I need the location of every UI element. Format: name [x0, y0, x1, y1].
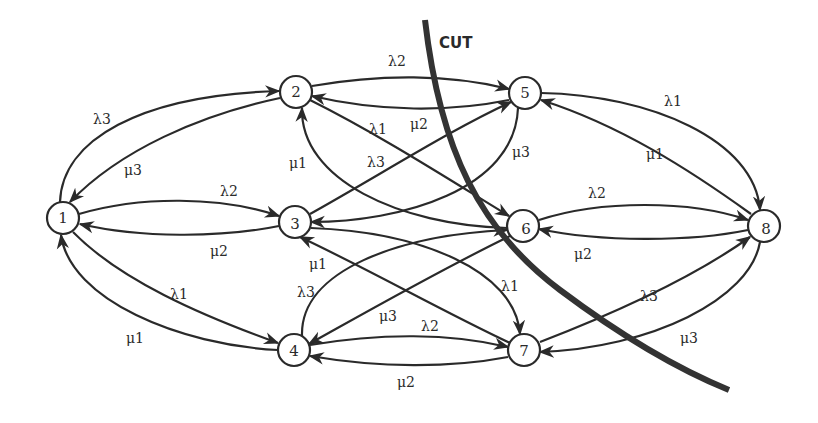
edge-1-to-2: [60, 91, 279, 202]
edge-4-to-6: [302, 230, 507, 336]
edge-label-8-6: μ2: [574, 246, 592, 262]
edge-1-to-3: [79, 201, 279, 216]
edge-7-to-4: [310, 356, 508, 365]
svg-text:4: 4: [289, 342, 299, 360]
edge-3-to-1: [80, 224, 279, 235]
state-transition-diagram: CUT λ3 μ3 λ2 μ2 λ1 μ1 λ2 μ2 λ1 μ1 λ3 μ3 …: [0, 0, 818, 423]
edge-label-5-3: μ3: [512, 144, 530, 160]
edge-label-3-7: λ1: [501, 278, 519, 294]
svg-text:2: 2: [291, 83, 301, 101]
node-6: 6: [507, 210, 539, 242]
edge-label-5-2: μ2: [410, 116, 428, 132]
svg-text:8: 8: [761, 220, 771, 238]
edge-label-4-1: μ1: [126, 330, 144, 346]
edge-5-to-2: [312, 96, 509, 109]
edge-label-7-4: μ2: [397, 374, 415, 390]
svg-text:7: 7: [519, 342, 529, 360]
edge-label-1-3: λ2: [220, 183, 238, 199]
edge-label-6-4: μ3: [379, 308, 397, 324]
edge-label-3-5: λ3: [367, 154, 385, 170]
edge-label-3-1: μ2: [210, 243, 228, 259]
node-5: 5: [509, 77, 541, 109]
node-3: 3: [279, 206, 311, 238]
edge-label-5-8: λ1: [664, 93, 682, 109]
svg-text:1: 1: [58, 209, 68, 227]
edge-3-to-7: [311, 228, 520, 334]
edge-label-1-4: λ1: [170, 286, 188, 302]
node-2: 2: [280, 76, 312, 108]
node-7: 7: [508, 334, 540, 366]
edge-label-4-7: λ2: [421, 318, 439, 334]
edge-6-to-8: [539, 205, 748, 220]
node-1: 1: [47, 202, 79, 234]
svg-text:3: 3: [290, 215, 300, 233]
edge-8-to-6: [539, 229, 748, 239]
edge-label-7-3: μ1: [309, 256, 327, 272]
svg-text:5: 5: [520, 84, 530, 102]
edge-2-to-5: [312, 77, 509, 89]
edge-label-8-5: μ1: [646, 146, 664, 162]
node-8: 8: [748, 210, 780, 242]
cut-label: CUT: [439, 34, 473, 52]
edge-label-2-5: λ2: [388, 53, 406, 69]
edge-label-6-8: λ2: [588, 185, 606, 201]
node-4: 4: [278, 334, 310, 366]
edge-4-to-7: [310, 336, 508, 347]
edge-label-6-2: μ1: [289, 155, 307, 171]
edge-label-7-8: λ3: [640, 288, 658, 304]
edge-label-8-7: μ3: [680, 330, 698, 346]
edge-label-4-6: λ3: [297, 284, 315, 300]
svg-text:6: 6: [521, 220, 531, 238]
edge-label-2-6: λ1: [369, 121, 387, 137]
edge-label-1-2: λ3: [93, 111, 111, 127]
edge-label-2-1: μ3: [124, 162, 142, 178]
